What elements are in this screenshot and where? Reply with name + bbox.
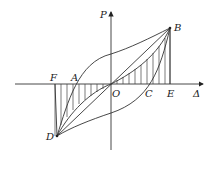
point-B [169,27,172,30]
label-delta: Δ [192,88,200,99]
label-F: F [49,72,58,83]
label-E: E [166,88,175,99]
label-C: C [145,88,153,99]
label-D: D [45,131,54,142]
hysteresis-diagram: P Δ B F A O C E D [0,0,213,169]
label-O: O [112,88,120,99]
label-A: A [70,72,78,83]
label-P: P [99,9,107,20]
point-D [56,135,59,138]
label-B: B [173,22,181,33]
